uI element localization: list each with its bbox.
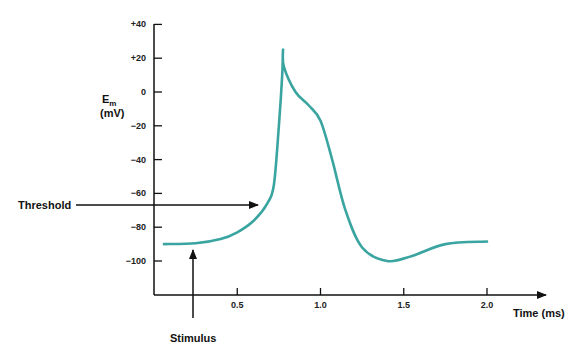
x-axis-label: Time (ms)	[513, 307, 565, 319]
y-tick-label: 0	[141, 87, 146, 97]
y-tick-label: −20	[131, 121, 146, 131]
y-tick-label: −40	[131, 155, 146, 165]
threshold-label: Threshold	[18, 199, 71, 211]
x-tick-label: 1.5	[397, 300, 410, 310]
stimulus-label: Stimulus	[170, 332, 216, 344]
y-tick-label: −60	[131, 188, 146, 198]
y-axis-units: (mV)	[100, 107, 125, 119]
x-tick-label: 2.0	[481, 300, 494, 310]
x-axis-ticks: 0.51.01.52.0	[231, 288, 493, 310]
y-tick-label: −100	[126, 256, 146, 266]
y-tick-label: +20	[131, 53, 146, 63]
action-potential-curve	[164, 50, 487, 262]
x-tick-label: 1.0	[314, 300, 327, 310]
y-axis-ticks: +40+200−20−40−60−80−100	[126, 19, 162, 266]
y-axis-label: Em	[102, 93, 116, 108]
x-tick-label: 0.5	[231, 300, 244, 310]
y-tick-label: −80	[131, 222, 146, 232]
action-potential-chart: +40+200−20−40−60−80−100 0.51.01.52.0 Em …	[0, 0, 588, 360]
y-tick-label: +40	[131, 19, 146, 29]
